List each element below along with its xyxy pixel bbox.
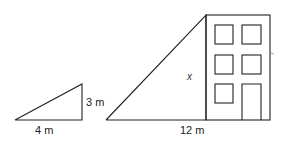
window (215, 84, 233, 103)
similar-triangles-diagram: 3 m 4 m x 12 m (0, 0, 286, 148)
small-triangle-height-label: 3 m (86, 96, 104, 108)
window (215, 55, 233, 74)
door (242, 84, 261, 120)
window (242, 25, 261, 44)
small-triangle (15, 84, 82, 120)
window (215, 25, 233, 44)
building (206, 15, 270, 120)
large-triangle (106, 15, 206, 120)
small-triangle-base-label: 4 m (35, 124, 53, 136)
large-triangle-base-label: 12 m (180, 124, 204, 136)
large-triangle-height-label: x (186, 71, 193, 82)
window (242, 55, 261, 74)
